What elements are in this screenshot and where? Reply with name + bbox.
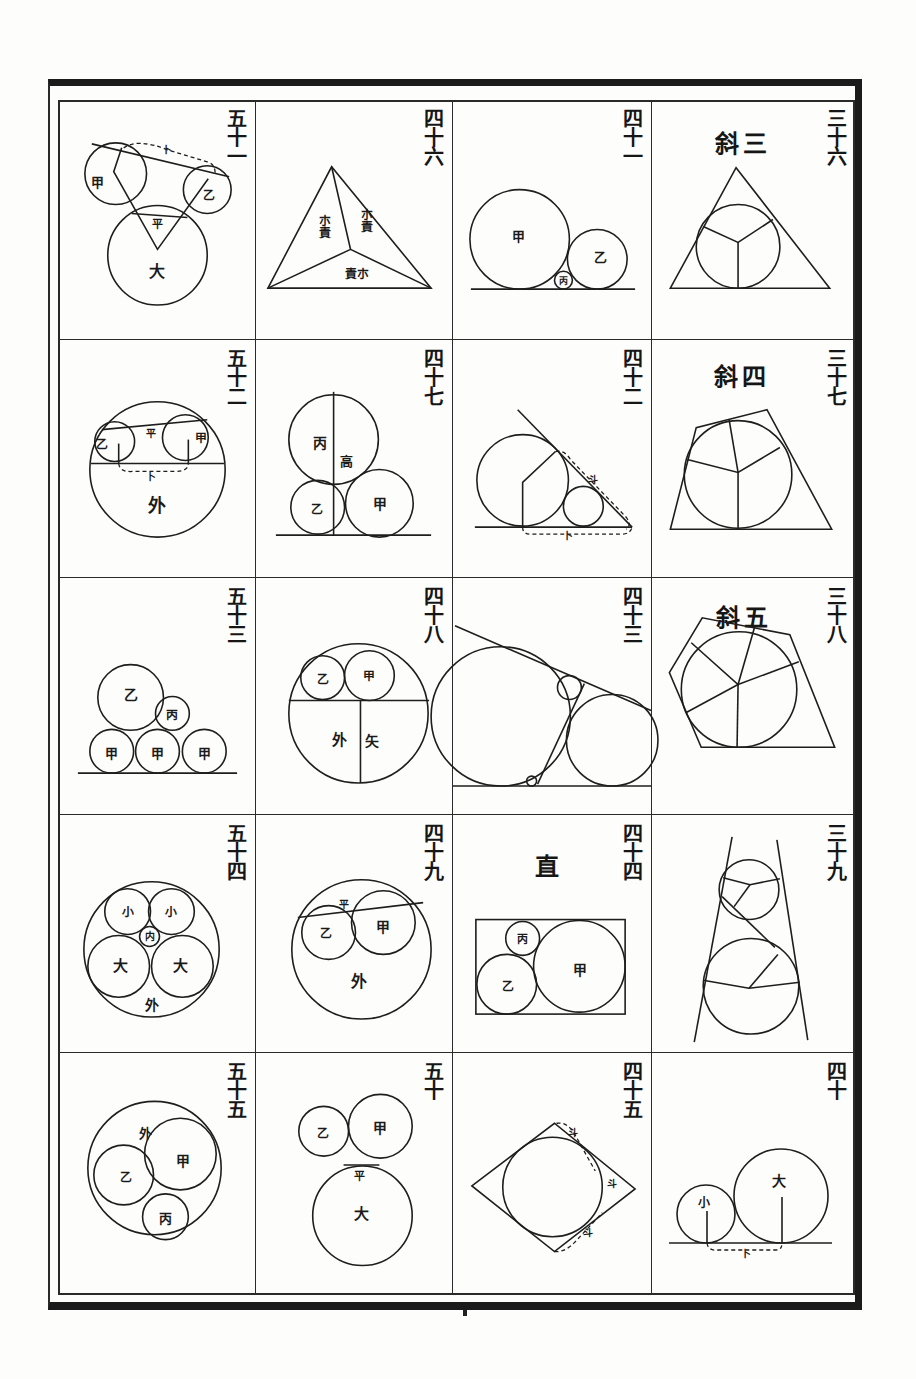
figure-stacked-circles-pile: 乙 丙 甲 甲 甲 <box>58 578 255 814</box>
svg-text:甲: 甲 <box>376 919 390 935</box>
figure-cell-38: 三十八 斜五 <box>652 578 855 815</box>
svg-text:甲: 甲 <box>363 669 375 683</box>
svg-text:乙: 乙 <box>320 927 332 941</box>
svg-text:外: 外 <box>350 972 367 991</box>
svg-text:乙: 乙 <box>311 502 323 516</box>
svg-text:乙: 乙 <box>594 250 607 265</box>
figure-circle-in-triangle <box>652 100 855 339</box>
print-mark <box>463 1310 467 1316</box>
svg-text:平: 平 <box>146 428 156 439</box>
figure-cell-36: 三十六 斜三 <box>652 100 855 340</box>
figure-five-circles-in-circle: 小 小 内 大 大 外 <box>58 815 255 1052</box>
figure-cell-54: 五十四 小 小 内 大 大 外 <box>58 815 256 1053</box>
svg-text:甲: 甲 <box>512 229 525 244</box>
svg-text:斗: 斗 <box>588 474 598 485</box>
svg-text:甲: 甲 <box>176 1153 190 1169</box>
svg-text:丙: 丙 <box>517 933 528 946</box>
figure-circles-between-lines <box>453 578 651 814</box>
svg-text:卜: 卜 <box>162 144 172 155</box>
svg-text:小: 小 <box>121 905 134 919</box>
figure-cell-42: 四十二 斗 卜 <box>453 340 652 578</box>
svg-text:小: 小 <box>164 905 177 919</box>
svg-text:斗: 斗 <box>607 1178 617 1189</box>
svg-text:丙: 丙 <box>559 276 568 286</box>
svg-text:大: 大 <box>173 957 188 975</box>
svg-text:乙: 乙 <box>96 437 108 451</box>
book-page: 五十一 甲 乙 大 卜 平 四十六 朩責 <box>0 0 916 1379</box>
figure-three-circles-in-rectangle: 丙 乙 甲 <box>453 815 651 1052</box>
figure-circle-in-pentagon <box>652 578 855 814</box>
figure-cell-48: 四十八 乙 甲 外 矢 <box>256 578 453 815</box>
svg-text:外: 外 <box>331 731 347 749</box>
svg-text:甲: 甲 <box>373 1120 387 1136</box>
svg-text:乙: 乙 <box>124 688 138 704</box>
figure-cell-44: 四十四 直 丙 乙 甲 <box>453 815 652 1053</box>
svg-text:乙: 乙 <box>502 979 514 993</box>
svg-text:外: 外 <box>145 997 159 1013</box>
figure-cell-50: 五十 乙 甲 平 大 <box>256 1053 453 1295</box>
figure-cell-52: 五十二 乙 甲 外 平 卜 <box>58 340 256 578</box>
svg-text:外: 外 <box>148 495 166 516</box>
svg-text:乙: 乙 <box>317 1126 329 1140</box>
figure-cell-39: 三十九 <box>652 815 855 1053</box>
figure-two-circles-in-segment: 乙 甲 外 平 卜 <box>58 340 255 577</box>
svg-text:平: 平 <box>339 899 349 910</box>
figure-circles-in-trapezoid-strip <box>652 815 855 1052</box>
figure-circle-in-quadrilateral <box>652 340 855 577</box>
figure-cell-43: 四十三 <box>453 578 652 815</box>
figure-cell-47: 四十七 丙 高 乙 甲 <box>256 340 453 578</box>
figure-three-stacked-circles: 丙 高 乙 甲 <box>256 340 452 577</box>
svg-text:小: 小 <box>698 1195 710 1210</box>
svg-text:乙: 乙 <box>120 1170 132 1184</box>
svg-text:斗: 斗 <box>583 1227 593 1238</box>
figure-cell-46: 四十六 朩責 朩責 責朩 <box>256 100 453 340</box>
figure-three-circles-in-circle: 外 甲 乙 丙 <box>58 1053 255 1295</box>
svg-text:乙: 乙 <box>317 672 329 686</box>
figure-three-circles-on-line: 甲 乙 丙 <box>453 100 651 339</box>
svg-text:卜: 卜 <box>563 530 573 541</box>
figure-cell-37: 三十七 斜四 <box>652 340 855 578</box>
svg-text:斗: 斗 <box>568 1127 578 1138</box>
figure-two-circles-on-big-circle: 乙 甲 平 大 <box>256 1053 452 1295</box>
svg-text:平: 平 <box>354 1170 365 1183</box>
svg-text:卜: 卜 <box>741 1248 751 1259</box>
svg-text:甲: 甲 <box>195 431 207 445</box>
svg-text:甲: 甲 <box>105 746 118 761</box>
svg-text:丙: 丙 <box>166 708 178 722</box>
svg-text:内: 内 <box>145 930 155 942</box>
svg-text:甲: 甲 <box>151 746 164 761</box>
figure-two-circles-tangent-big-circle: 甲 乙 大 卜 平 <box>58 100 255 339</box>
figure-cell-40: 四十 小 大 卜 <box>652 1053 855 1295</box>
svg-text:甲: 甲 <box>373 496 387 512</box>
figure-cell-51: 五十一 甲 乙 大 卜 平 <box>58 100 256 340</box>
svg-text:甲: 甲 <box>573 962 587 978</box>
figure-circle-in-rhombus: 斗 斗 斗 <box>453 1053 651 1295</box>
figure-two-circles-on-line: 小 大 卜 <box>652 1053 855 1295</box>
figure-triangle-three-regions: 朩責 朩責 責朩 <box>256 100 452 339</box>
svg-text:責朩: 責朩 <box>344 267 369 281</box>
figure-cell-53: 五十三 乙 丙 甲 甲 甲 <box>58 578 256 815</box>
svg-text:朩責: 朩責 <box>317 214 332 239</box>
svg-text:乙: 乙 <box>203 188 215 202</box>
svg-text:卜: 卜 <box>146 471 156 482</box>
svg-text:大: 大 <box>113 957 128 975</box>
svg-text:外: 外 <box>139 1126 152 1141</box>
figure-two-circles-in-angle: 斗 卜 <box>453 340 651 577</box>
svg-text:平: 平 <box>152 218 163 231</box>
svg-text:矢: 矢 <box>365 733 379 749</box>
svg-text:大: 大 <box>149 262 165 281</box>
svg-text:甲: 甲 <box>91 175 104 190</box>
svg-text:大: 大 <box>772 1173 786 1189</box>
svg-text:甲: 甲 <box>198 746 211 761</box>
figure-cell-45: 四十五 斗 斗 斗 <box>453 1053 652 1295</box>
figure-two-circles-chord-in-circle: 平 乙 甲 外 <box>256 815 452 1052</box>
figure-grid: 五十一 甲 乙 大 卜 平 四十六 朩責 <box>58 100 855 1295</box>
svg-text:丙: 丙 <box>159 1211 172 1226</box>
figure-cell-41: 四十一 甲 乙 丙 <box>453 100 652 340</box>
svg-text:朩責: 朩責 <box>358 208 373 233</box>
figure-circles-in-segment-with-sagitta: 乙 甲 外 矢 <box>256 578 452 814</box>
figure-cell-55: 五十五 外 甲 乙 丙 <box>58 1053 256 1295</box>
figure-cell-49: 四十九 平 乙 甲 外 <box>256 815 453 1053</box>
svg-text:大: 大 <box>354 1205 369 1223</box>
svg-text:丙: 丙 <box>313 435 327 451</box>
